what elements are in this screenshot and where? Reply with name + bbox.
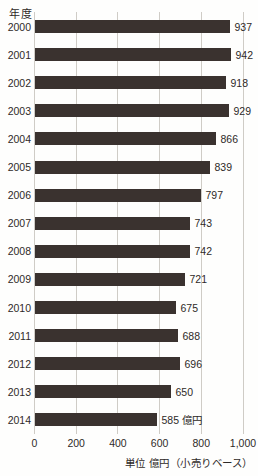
bar (35, 217, 190, 230)
year-label: 2011 (0, 329, 31, 343)
x-tick-label: 200 (56, 437, 96, 449)
year-label: 2006 (0, 188, 31, 202)
x-tick-label: 800 (181, 437, 221, 449)
bar (35, 104, 229, 117)
year-label: 2005 (0, 160, 31, 174)
value-label: 688 (183, 329, 201, 343)
value-label: 937 (235, 20, 253, 34)
year-label: 2013 (0, 385, 31, 399)
year-label: 2009 (0, 272, 31, 286)
year-label: 2001 (0, 48, 31, 62)
value-label: 942 (236, 48, 254, 62)
bar (35, 76, 226, 89)
x-tick-label: 1,000 (223, 437, 258, 449)
year-label: 2012 (0, 357, 31, 371)
value-label: 675 (181, 301, 199, 315)
value-label: 743 (195, 216, 213, 230)
bar (35, 132, 216, 145)
value-label: 585 億円 (162, 413, 202, 427)
year-label: 2004 (0, 132, 31, 146)
x-tick-label: 600 (140, 437, 180, 449)
bar (35, 189, 201, 202)
value-label: 866 (221, 132, 239, 146)
bar (35, 301, 176, 314)
year-label: 2014 (0, 413, 31, 427)
value-label: 918 (231, 76, 249, 90)
value-label: 650 (176, 385, 194, 399)
x-tick-label: 0 (15, 437, 55, 449)
bar (35, 385, 171, 398)
year-label: 2008 (0, 244, 31, 258)
bar (35, 48, 231, 61)
value-label: 742 (195, 244, 213, 258)
bar-chart-figure: 年度 単位 億円（小売りベース） 02004006008001,00020009… (0, 0, 258, 476)
value-label: 721 (190, 272, 208, 286)
bar (35, 357, 180, 370)
year-label: 2000 (0, 20, 31, 34)
bar (35, 273, 185, 286)
bar (35, 413, 157, 426)
value-label: 839 (215, 160, 233, 174)
bar (35, 245, 190, 258)
x-tick-label: 400 (98, 437, 138, 449)
value-label: 696 (185, 357, 203, 371)
year-label: 2007 (0, 216, 31, 230)
year-label: 2010 (0, 301, 31, 315)
x-axis-unit-caption: 単位 億円（小売りベース） (125, 455, 253, 470)
value-label: 929 (234, 104, 252, 118)
bar (35, 161, 210, 174)
value-label: 797 (206, 188, 224, 202)
bar (35, 20, 230, 33)
bar (35, 329, 178, 342)
year-label: 2003 (0, 104, 31, 118)
year-label: 2002 (0, 76, 31, 90)
